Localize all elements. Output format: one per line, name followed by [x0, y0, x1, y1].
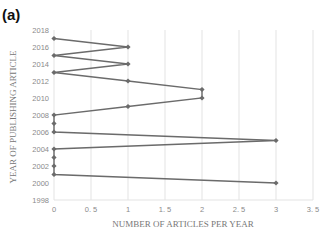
data-point-marker [273, 180, 278, 185]
y-tick-label: 2002 [32, 162, 49, 171]
data-point-marker [51, 146, 56, 151]
y-tick-label: 2018 [32, 26, 49, 35]
y-tick-label: 2010 [32, 94, 49, 103]
x-tick-label: 3. 5 [307, 205, 320, 214]
data-point-marker [51, 172, 56, 177]
x-axis-ticks: 00. 511. 522. 533. 5 [52, 205, 319, 214]
data-point-marker [51, 36, 56, 41]
x-tick-label: 2 [200, 205, 204, 214]
data-point-marker [51, 129, 56, 134]
data-point-marker [125, 104, 130, 109]
gridlines [54, 30, 313, 200]
x-axis-title: NUMBER OF ARTICLES PER YEAR [112, 219, 254, 229]
x-tick-label: 0 [52, 205, 56, 214]
y-tick-label: 1998 [32, 196, 49, 205]
data-point-marker [51, 163, 56, 168]
data-point-marker [51, 121, 56, 126]
y-tick-label: 2006 [32, 128, 49, 137]
data-point-marker [125, 44, 130, 49]
data-point-marker [125, 61, 130, 66]
y-tick-label: 2014 [32, 60, 49, 69]
x-tick-label: 1 [126, 205, 130, 214]
data-point-marker [51, 155, 56, 160]
y-tick-label: 2008 [32, 111, 49, 120]
data-point-marker [199, 95, 204, 100]
data-point-marker [51, 112, 56, 117]
y-axis-title: YEAR OF PUBLISHING ARTICLE [8, 50, 18, 184]
data-point-marker [51, 53, 56, 58]
x-tick-label: 3 [274, 205, 278, 214]
y-tick-label: 2004 [32, 145, 49, 154]
x-tick-label: 0. 5 [85, 205, 98, 214]
y-tick-label: 2000 [32, 179, 49, 188]
y-tick-label: 2012 [32, 77, 49, 86]
data-point-marker [51, 70, 56, 75]
y-axis-ticks: 1998200020022004200620082010201220142016… [32, 26, 49, 205]
y-tick-label: 2016 [32, 43, 49, 52]
data-point-marker [125, 78, 130, 83]
line-chart: 00. 511. 522. 533. 5 1998200020022004200… [0, 0, 334, 240]
data-point-marker [273, 138, 278, 143]
data-point-marker [199, 87, 204, 92]
x-tick-label: 1. 5 [159, 205, 172, 214]
x-tick-label: 2. 5 [233, 205, 246, 214]
